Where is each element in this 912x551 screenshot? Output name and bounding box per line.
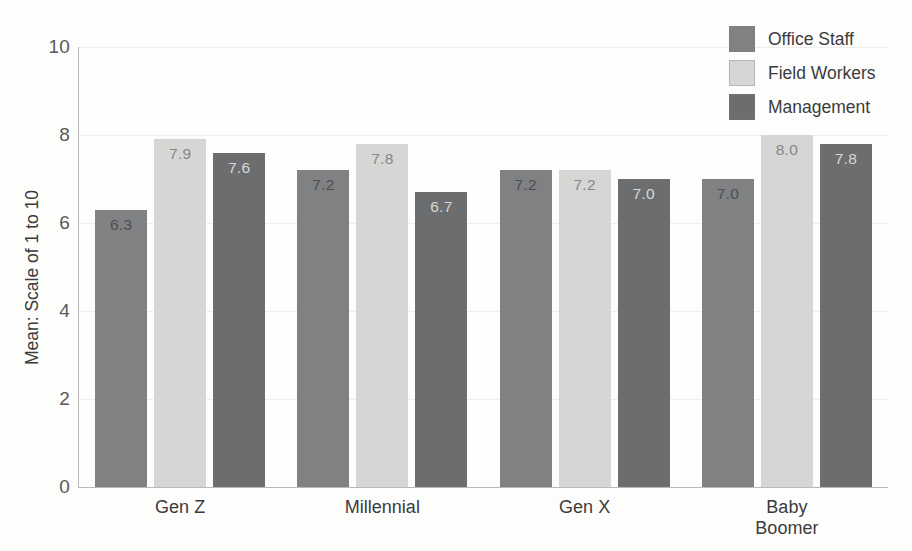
legend-swatch bbox=[729, 94, 755, 120]
bar-value-label: 7.0 bbox=[618, 185, 670, 203]
legend-swatch bbox=[729, 26, 755, 52]
bar-value-label: 8.0 bbox=[761, 141, 813, 159]
bar-value-label: 7.6 bbox=[213, 159, 265, 177]
bar: 7.0 bbox=[618, 179, 670, 487]
bar: 7.8 bbox=[356, 144, 408, 487]
bar-value-label: 7.2 bbox=[559, 176, 611, 194]
bar-group: 6.37.97.6 bbox=[95, 47, 265, 487]
x-axis-category-label: Gen Z bbox=[79, 497, 281, 518]
bar: 7.6 bbox=[213, 153, 265, 487]
legend-item[interactable]: Field Workers bbox=[729, 58, 909, 88]
x-axis-category-label: BabyBoomer bbox=[686, 497, 888, 539]
bar-value-label: 7.9 bbox=[154, 145, 206, 163]
y-axis-tick-label: 0 bbox=[24, 476, 70, 498]
legend-label: Office Staff bbox=[768, 29, 854, 50]
x-axis-category-line: Boomer bbox=[686, 518, 888, 539]
legend: Office StaffField WorkersManagement bbox=[729, 24, 909, 126]
x-axis-category-line: Gen X bbox=[484, 497, 686, 518]
bar-group: 7.27.86.7 bbox=[297, 47, 467, 487]
bar-value-label: 7.2 bbox=[500, 176, 552, 194]
bar-value-label: 6.3 bbox=[95, 216, 147, 234]
bar: 7.2 bbox=[500, 170, 552, 487]
y-axis-title: Mean: Scale of 1 to 10 bbox=[22, 78, 43, 478]
bar-value-label: 7.2 bbox=[297, 176, 349, 194]
bar: 7.2 bbox=[559, 170, 611, 487]
x-axis-category-line: Baby bbox=[686, 497, 888, 518]
legend-label: Field Workers bbox=[768, 63, 876, 84]
legend-swatch bbox=[729, 60, 755, 86]
bar: 7.8 bbox=[820, 144, 872, 487]
legend-item[interactable]: Management bbox=[729, 92, 909, 122]
bar-value-label: 7.0 bbox=[702, 185, 754, 203]
y-axis-tick-label: 10 bbox=[24, 36, 70, 58]
bar: 7.2 bbox=[297, 170, 349, 487]
bar: 7.0 bbox=[702, 179, 754, 487]
legend-item[interactable]: Office Staff bbox=[729, 24, 909, 54]
x-axis-category-label: Millennial bbox=[281, 497, 483, 518]
bar-value-label: 7.8 bbox=[820, 150, 872, 168]
x-axis-category-line: Millennial bbox=[281, 497, 483, 518]
bar-group: 7.27.27.0 bbox=[500, 47, 670, 487]
bar: 8.0 bbox=[761, 135, 813, 487]
bar-value-label: 7.8 bbox=[356, 150, 408, 168]
x-axis-line bbox=[78, 487, 888, 488]
bar: 7.9 bbox=[154, 139, 206, 487]
bar: 6.7 bbox=[415, 192, 467, 487]
bar: 6.3 bbox=[95, 210, 147, 487]
bar-value-label: 6.7 bbox=[415, 198, 467, 216]
legend-label: Management bbox=[768, 97, 870, 118]
x-axis-category-label: Gen X bbox=[484, 497, 686, 518]
bar-chart: 0246810 Mean: Scale of 1 to 10 6.37.97.6… bbox=[0, 0, 912, 551]
x-axis-category-line: Gen Z bbox=[79, 497, 281, 518]
